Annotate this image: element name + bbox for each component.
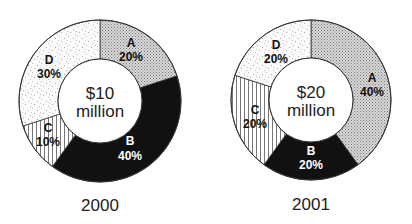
slice-d-name-2001: D (272, 38, 281, 52)
donut-chart-2000: A 20% B 40% C 10% D 30% $10 million 2000 (19, 20, 181, 215)
slice-b-name-2001: B (307, 144, 316, 158)
center-unit-2000: million (76, 102, 124, 121)
center-amount-2001: $20 (297, 83, 325, 102)
slice-b-pct-2001: 20% (299, 158, 323, 172)
center-unit-2001: million (287, 101, 335, 120)
slice-b-pct-2000: 40% (118, 149, 142, 163)
slice-d-pct-2000: 30% (37, 67, 61, 81)
slice-a-pct-2001: 40% (360, 85, 384, 99)
slice-c-pct-2000: 10% (36, 135, 60, 149)
slice-d-name-2000: D (45, 53, 54, 67)
donut-chart-2001: A 40% B 20% C 20% D 20% $20 million 2001 (231, 20, 391, 214)
slice-c-name-2001: C (251, 103, 260, 117)
year-label-2000: 2000 (81, 196, 119, 215)
slice-d-pct-2001: 20% (264, 52, 288, 66)
slice-a-name-2000: A (127, 36, 136, 50)
slice-c-name-2000: C (44, 121, 53, 135)
slice-c-pct-2001: 20% (243, 117, 267, 131)
year-label-2001: 2001 (292, 195, 330, 214)
slice-a-name-2001: A (368, 71, 377, 85)
chart-canvas: A 20% B 40% C 10% D 30% $10 million 2000… (0, 0, 412, 224)
slice-b-name-2000: B (126, 134, 135, 148)
slice-a-pct-2000: 20% (119, 50, 143, 64)
center-amount-2000: $10 (86, 84, 114, 103)
